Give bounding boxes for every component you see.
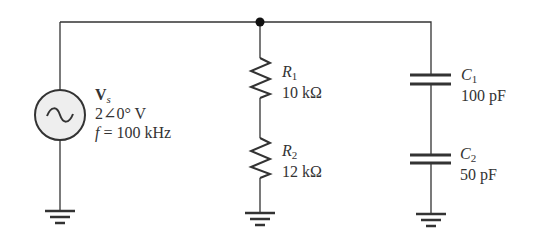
ground-icon-source bbox=[45, 211, 75, 223]
c1-name-label: C1 bbox=[461, 66, 477, 88]
schematic-drawing bbox=[0, 0, 546, 241]
resistor-r2-icon bbox=[251, 138, 270, 178]
r2-name-label: R2 bbox=[282, 142, 297, 164]
c2-value-label: 50 pF bbox=[460, 166, 497, 183]
capacitor-c1-icon bbox=[410, 75, 451, 84]
c1-value-label: 100 pF bbox=[461, 87, 506, 104]
ground-icon-resistors bbox=[245, 213, 275, 225]
circuit-diagram: Vs 2∠0° V f = 100 kHz R1 10 kΩ R2 12 kΩ … bbox=[0, 0, 546, 241]
r1-value-label: 10 kΩ bbox=[282, 84, 322, 101]
ground-icon-capacitors bbox=[416, 214, 446, 226]
resistor-r1-icon bbox=[251, 58, 270, 98]
top-wire bbox=[60, 22, 431, 75]
r1-name-label: R1 bbox=[282, 63, 297, 85]
c2-name-label: C2 bbox=[460, 145, 476, 167]
capacitor-c2-icon bbox=[410, 155, 451, 163]
source-magnitude-label: 2∠0° V bbox=[95, 105, 146, 122]
source-frequency-label: f = 100 kHz bbox=[95, 124, 171, 141]
r2-value-label: 12 kΩ bbox=[282, 163, 322, 180]
junction-dot bbox=[256, 18, 265, 27]
ac-source-icon bbox=[35, 90, 85, 140]
